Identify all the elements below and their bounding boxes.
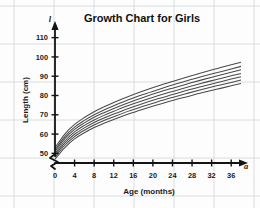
x-axis-label: Age (months): [123, 187, 175, 196]
y-axis-variable-symbol: l: [49, 14, 52, 24]
percentile-curve: [55, 74, 241, 154]
x-tick-label: 28: [188, 171, 196, 180]
x-tick-label: 32: [208, 171, 216, 180]
x-tick-label: 0: [53, 171, 57, 180]
x-axis-tick-labels: 04812162024283236: [53, 171, 235, 180]
y-tick-label: 50: [40, 149, 48, 158]
chart-title: Growth Chart for Girls: [84, 12, 200, 24]
y-axis: [51, 21, 58, 156]
y-axis-arrowhead: [51, 21, 58, 30]
y-tick-label: 90: [40, 72, 48, 81]
x-axis: [55, 159, 248, 166]
x-tick-label: 8: [92, 171, 96, 180]
chart-card: Growth Chart for Girls l a 5060708090100…: [14, 6, 254, 202]
percentile-curve: [55, 77, 241, 156]
y-tick-label: 110: [36, 33, 48, 42]
y-axis-label: Length (cm): [21, 77, 30, 123]
y-tick-label: 80: [40, 91, 48, 100]
y-axis-tick-labels: 5060708090100110: [36, 33, 48, 158]
percentile-curve: [55, 70, 241, 152]
x-tick-label: 24: [168, 171, 177, 180]
percentile-curve-group: [55, 62, 241, 159]
x-tick-label: 12: [110, 171, 118, 180]
y-tick-label: 100: [36, 53, 48, 62]
growth-chart-figure: Growth Chart for Girls l a 5060708090100…: [0, 0, 260, 208]
x-tick-label: 36: [227, 171, 235, 180]
x-tick-label: 4: [73, 171, 78, 180]
y-tick-label: 70: [40, 110, 48, 119]
x-tick-label: 20: [149, 171, 157, 180]
growth-chart-plot: Growth Chart for Girls l a 5060708090100…: [14, 6, 254, 202]
x-tick-label: 16: [129, 171, 137, 180]
y-tick-label: 60: [40, 130, 48, 139]
